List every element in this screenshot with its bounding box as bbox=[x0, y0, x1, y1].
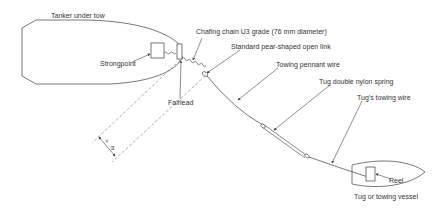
leader-nylon-spring bbox=[274, 85, 330, 130]
dim-extension-1 bbox=[92, 60, 180, 143]
label-dimension-unit: m bbox=[110, 146, 116, 151]
label-reel: Reel bbox=[389, 177, 403, 184]
label-fairlead: Fairlead bbox=[168, 99, 193, 106]
towing-pennant-wire bbox=[207, 76, 263, 125]
label-pennant-wire: Towing pennant wire bbox=[276, 61, 340, 68]
towing-arrangement-diagram: Tanker under tow Strongpoint Fairlead Ch… bbox=[0, 0, 448, 213]
label-tanker: Tanker under tow bbox=[51, 12, 105, 19]
label-nylon-spring: Tug double nylon spring bbox=[319, 78, 393, 85]
leader-tug-wire bbox=[332, 101, 362, 163]
strongpoint-box bbox=[151, 43, 164, 58]
spring-end-a bbox=[260, 123, 266, 128]
label-tug: Tug or towing vessel bbox=[354, 193, 418, 200]
reel-box bbox=[366, 167, 375, 181]
leader-pennant-wire bbox=[238, 68, 278, 100]
label-chafing-chain: Chafing chain U3 grade (76 mm diameter) bbox=[196, 28, 327, 35]
label-dimension-symbol: > bbox=[104, 139, 110, 143]
dim-extension-2 bbox=[112, 76, 205, 162]
inboard-chain bbox=[164, 52, 176, 54]
leader-chafing-chain bbox=[193, 38, 202, 60]
label-tug-wire: Tug's towing wire bbox=[357, 94, 411, 101]
tug-towing-wire bbox=[309, 157, 368, 177]
chafing-chain bbox=[182, 57, 206, 67]
label-pear-link: Standard pear-shaped open link bbox=[231, 43, 331, 50]
fairlead-box bbox=[177, 44, 182, 59]
leader-fairlead bbox=[180, 61, 181, 99]
label-strongpoint: Strongpoint bbox=[100, 60, 136, 67]
leader-pear-link bbox=[207, 50, 240, 73]
